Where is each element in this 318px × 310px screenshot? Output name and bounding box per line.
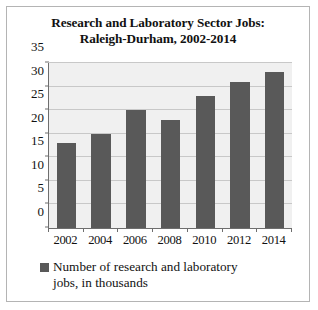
bar-slot — [49, 63, 84, 228]
bar-slot — [257, 63, 292, 228]
x-tick-mark — [83, 228, 84, 232]
bar-2006 — [126, 110, 145, 228]
x-tick-mark — [291, 228, 292, 232]
y-tick-label: 15 — [31, 133, 44, 149]
y-tick-label: 20 — [31, 110, 44, 126]
bar-2012 — [230, 82, 249, 228]
x-tick-mark — [117, 228, 118, 232]
bar-2014 — [265, 72, 284, 228]
bar-slot — [188, 63, 223, 228]
x-tick-mark — [256, 228, 257, 232]
legend-swatch-icon — [40, 263, 49, 272]
bar-slot — [118, 63, 153, 228]
legend-label-line-1: Number of research and laboratory — [53, 259, 238, 274]
x-tick-mark — [187, 228, 188, 232]
x-axis-labels: 2002200420062008201020122014 — [48, 233, 291, 248]
chart-figure: Research and Laboratory Sector Jobs: Ral… — [6, 6, 310, 302]
bar-2004 — [91, 134, 110, 228]
x-tick-label-2004: 2004 — [83, 233, 118, 248]
legend-label-line-2: jobs, in thousands — [53, 275, 148, 290]
x-tick-mark — [152, 228, 153, 232]
chart-title: Research and Laboratory Sector Jobs: Ral… — [7, 15, 309, 47]
x-tick-label-2006: 2006 — [117, 233, 152, 248]
chart-legend: Number of research and laboratory jobs, … — [40, 259, 290, 290]
bar-slot — [84, 63, 119, 228]
y-tick-label: 30 — [31, 63, 44, 79]
x-tick-label-2010: 2010 — [187, 233, 222, 248]
bar-2008 — [161, 120, 180, 228]
bar-slot — [223, 63, 258, 228]
x-tick-label-2014: 2014 — [256, 233, 291, 248]
x-tick-label-2012: 2012 — [222, 233, 257, 248]
bar-series — [49, 63, 292, 228]
y-tick-label: 35 — [31, 39, 44, 55]
legend-label: Number of research and laboratory jobs, … — [53, 259, 238, 290]
plot-area: 05101520253035 — [48, 63, 292, 229]
y-tick-label: 10 — [31, 157, 44, 173]
y-tick-label: 5 — [38, 180, 45, 196]
x-tick-mark — [222, 228, 223, 232]
x-tick-mark — [48, 228, 49, 232]
chart-title-line-2: Raleigh-Durham, 2002-2014 — [7, 31, 309, 47]
bar-2010 — [196, 96, 215, 228]
bar-slot — [153, 63, 188, 228]
x-tick-label-2002: 2002 — [48, 233, 83, 248]
bar-2002 — [57, 143, 76, 228]
x-tick-label-2008: 2008 — [152, 233, 187, 248]
y-tick-label: 25 — [31, 86, 44, 102]
y-tick-label: 0 — [38, 204, 45, 220]
chart-title-line-1: Research and Laboratory Sector Jobs: — [7, 15, 309, 31]
